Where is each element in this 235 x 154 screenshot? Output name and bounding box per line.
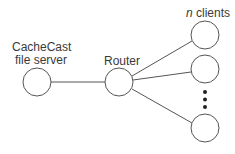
clients-count-variable: n (186, 6, 193, 20)
client-node-3 (191, 114, 219, 142)
diagram-graphics (0, 0, 235, 154)
router-client2-link (133, 72, 191, 80)
ellipsis-dots-icon (203, 90, 207, 109)
server-node (23, 68, 51, 96)
clients-label: n clients (186, 7, 230, 20)
router-client3-link (132, 89, 192, 123)
client-node-2 (191, 55, 219, 83)
server-label-line2: file server (15, 54, 67, 67)
client-node-1 (191, 21, 219, 49)
router-client1-link (132, 41, 192, 76)
router-node (105, 68, 133, 96)
clients-label-text: clients (193, 6, 230, 20)
router-label: Router (104, 55, 140, 68)
network-diagram: CacheCast file server Router n clients (0, 0, 235, 154)
